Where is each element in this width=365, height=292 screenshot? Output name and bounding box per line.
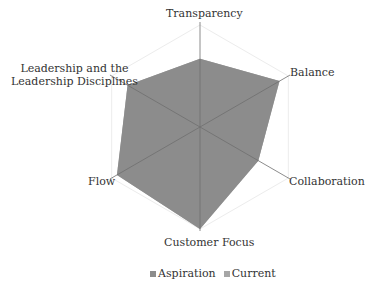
axis-label-leadership: Leadership and the Leadership Discipline… [11,62,138,88]
legend-item-current: Current [224,267,276,280]
legend-label-aspiration: Aspiration [158,267,216,280]
radar-series [117,59,280,229]
chart-legend: Aspiration Current [150,267,276,280]
axis-label-leadership-line1: Leadership and the [11,62,138,75]
legend-swatch-aspiration [150,271,156,277]
legend-label-current: Current [232,267,276,280]
axis-label-collaboration: Collaboration [289,175,365,188]
axis-label-transparency: Transparency [166,7,243,20]
axis-label-flow: Flow [88,175,115,188]
legend-swatch-current [224,271,230,277]
legend-item-aspiration: Aspiration [150,267,216,280]
axis-label-balance: Balance [290,66,334,79]
axis-label-leadership-line2: Leadership Disciplines [11,75,138,88]
series-aspiration [117,59,280,229]
axis-label-customer-focus: Customer Focus [164,236,254,249]
